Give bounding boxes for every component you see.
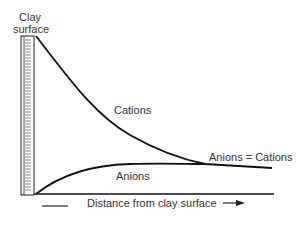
clay-surface-column (21, 36, 34, 195)
x-axis-label: Distance from clay surface (87, 198, 217, 209)
cations-label: Cations (114, 105, 151, 116)
clay-surface-label-line1: Clay (19, 12, 41, 23)
axis-arrow-head (236, 200, 245, 206)
anions-equals-cations-label: Anions = Cations (209, 152, 292, 163)
anions-label: Anions (116, 171, 150, 182)
clay-surface-label-line2: surface (13, 24, 49, 35)
cations-curve (36, 36, 272, 168)
